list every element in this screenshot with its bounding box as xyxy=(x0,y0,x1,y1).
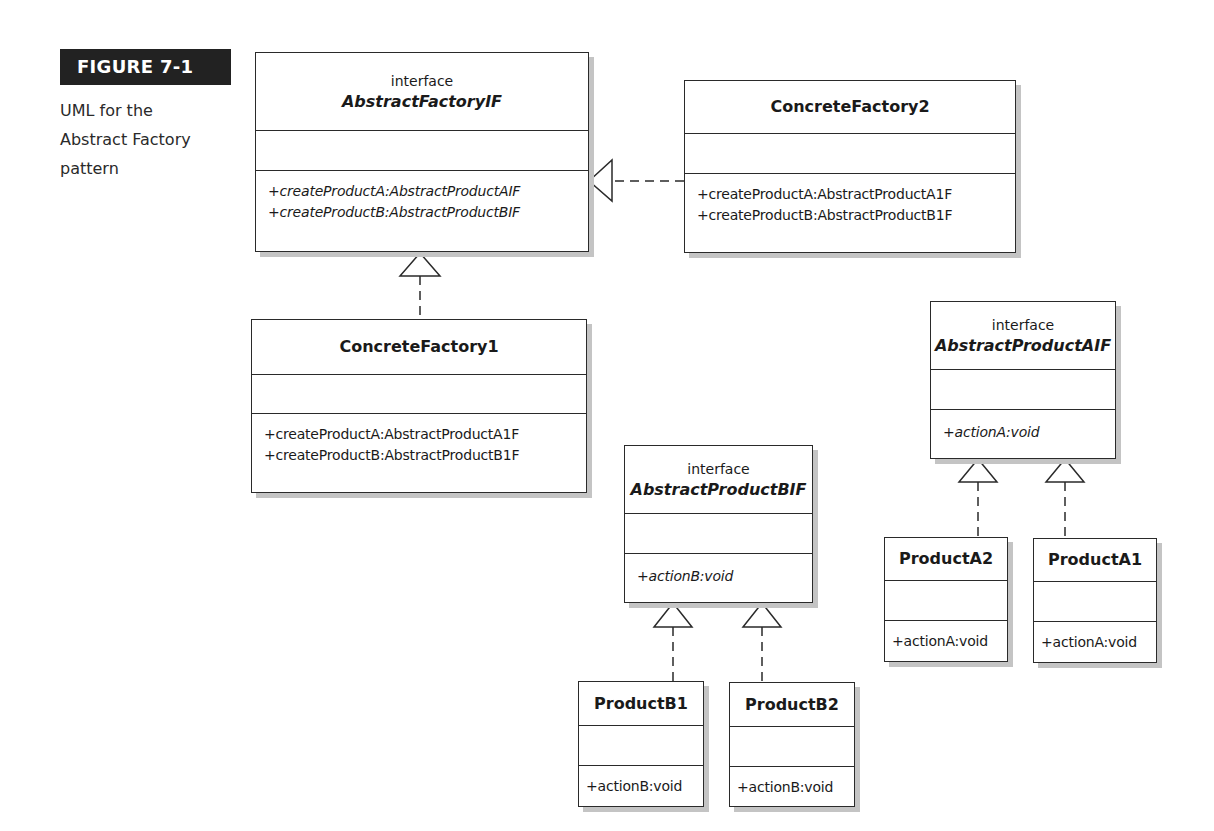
class-name: AbstractProductBIF xyxy=(631,479,807,501)
operations-section: +actionA:void xyxy=(1034,622,1156,662)
caption-line: pattern xyxy=(60,154,230,183)
operations-section: +actionA:void xyxy=(931,410,1115,458)
class-concrete-factory-2: ConcreteFactory2 +createProductA:Abstrac… xyxy=(684,80,1016,253)
attributes-section xyxy=(885,581,1007,621)
realization-arrow-icon xyxy=(654,603,692,627)
operation: +createProductA:AbstractProductAIF xyxy=(268,181,578,202)
stereotype: interface xyxy=(391,71,453,91)
class-name-section: ProductB1 xyxy=(579,682,703,726)
class-name-section: ConcreteFactory1 xyxy=(252,320,586,375)
attributes-section xyxy=(256,131,588,171)
figure-label: FIGURE 7-1 xyxy=(60,49,231,85)
class-product-b2: ProductB2 +actionB:void xyxy=(729,682,855,807)
operations-section: +actionB:void xyxy=(625,554,812,602)
class-name: ConcreteFactory2 xyxy=(770,96,929,118)
class-name: ConcreteFactory1 xyxy=(339,336,498,358)
attributes-section xyxy=(252,375,586,414)
class-abstract-product-b-if: interface AbstractProductBIF +actionB:vo… xyxy=(624,445,813,603)
class-name: AbstractFactoryIF xyxy=(342,91,502,113)
operations-section: +actionA:void xyxy=(885,621,1007,661)
class-name-section: interface AbstractProductAIF xyxy=(931,302,1115,370)
class-name: ProductA2 xyxy=(899,548,993,570)
class-name: ProductB2 xyxy=(745,694,839,716)
class-name-section: ProductA2 xyxy=(885,538,1007,581)
operation: +actionA:void xyxy=(1041,632,1151,653)
class-name: ProductB1 xyxy=(594,693,688,715)
class-concrete-factory-1: ConcreteFactory1 +createProductA:Abstrac… xyxy=(251,319,587,493)
stereotype: interface xyxy=(687,459,749,479)
class-product-a1: ProductA1 +actionA:void xyxy=(1033,538,1157,663)
operation: +actionB:void xyxy=(737,777,848,798)
attributes-section xyxy=(579,726,703,766)
class-product-a2: ProductA2 +actionA:void xyxy=(884,537,1008,662)
operation: +actionA:void xyxy=(943,422,1105,443)
realization-arrow-icon xyxy=(959,459,997,482)
attributes-section xyxy=(625,514,812,554)
attributes-section xyxy=(685,134,1015,174)
class-product-b1: ProductB1 +actionB:void xyxy=(578,681,704,807)
class-name-section: interface AbstractFactoryIF xyxy=(256,53,588,131)
class-name-section: ConcreteFactory2 xyxy=(685,81,1015,134)
class-abstract-product-a-if: interface AbstractProductAIF +actionA:vo… xyxy=(930,301,1116,459)
operation: +createProductB:AbstractProductB1F xyxy=(697,205,1005,226)
class-name: ProductA1 xyxy=(1048,549,1142,571)
stereotype: interface xyxy=(992,315,1054,335)
caption-line: UML for the xyxy=(60,96,230,125)
operations-section: +actionB:void xyxy=(579,766,703,806)
class-name-section: ProductB2 xyxy=(730,683,854,727)
operation: +actionB:void xyxy=(637,566,802,587)
class-abstract-factory-if: interface AbstractFactoryIF +createProdu… xyxy=(255,52,589,252)
realization-arrow-icon xyxy=(400,253,440,276)
realization-arrow-icon xyxy=(1046,459,1084,482)
operations-section: +actionB:void xyxy=(730,767,854,806)
operation: +createProductA:AbstractProductA1F xyxy=(264,424,576,445)
realization-arrow-icon xyxy=(589,160,612,201)
attributes-section xyxy=(1034,582,1156,622)
class-name-section: interface AbstractProductBIF xyxy=(625,446,812,514)
operation: +createProductB:AbstractProductB1F xyxy=(264,445,576,466)
operation: +createProductA:AbstractProductA1F xyxy=(697,184,1005,205)
operations-section: +createProductA:AbstractProductA1F +crea… xyxy=(685,174,1015,252)
attributes-section xyxy=(730,727,854,767)
operation: +actionB:void xyxy=(586,776,697,797)
figure-caption: UML for the Abstract Factory pattern xyxy=(60,96,230,183)
class-name: AbstractProductAIF xyxy=(935,335,1111,357)
operation: +createProductB:AbstractProductBIF xyxy=(268,202,578,223)
class-name-section: ProductA1 xyxy=(1034,539,1156,582)
operations-section: +createProductA:AbstractProductA1F +crea… xyxy=(252,414,586,492)
operation: +actionA:void xyxy=(892,631,1002,652)
caption-line: Abstract Factory xyxy=(60,125,230,154)
attributes-section xyxy=(931,370,1115,410)
realization-arrow-icon xyxy=(743,603,781,627)
operations-section: +createProductA:AbstractProductAIF +crea… xyxy=(256,171,588,251)
